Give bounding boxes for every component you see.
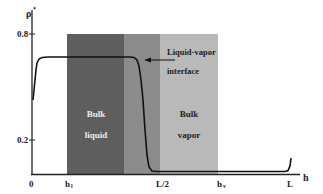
bulk-liquid-region bbox=[67, 34, 124, 174]
annotation-label-1: Liquid-vapor bbox=[167, 47, 216, 57]
x-tick-half-label: L/2 bbox=[156, 179, 170, 189]
bulk-vapor-label-1: Bulk bbox=[180, 109, 199, 119]
annotation-label-2: interface bbox=[167, 66, 199, 76]
bulk-liquid-label-1: Bulk bbox=[87, 109, 106, 119]
density-profile-chart: ρ * 0.8 0.2 0 h l L/2 h v L h Bulk liqui… bbox=[0, 0, 323, 194]
x-tick-0-label: 0 bbox=[29, 179, 34, 189]
x-tick-L-label: L bbox=[287, 179, 293, 189]
y-tick-08-label: 0.8 bbox=[17, 29, 29, 39]
y-tick-02-label: 0.2 bbox=[17, 135, 29, 145]
y-axis-label-sup: * bbox=[33, 6, 36, 12]
bulk-liquid-label-2: liquid bbox=[85, 130, 108, 140]
y-axis-label: ρ bbox=[26, 8, 31, 19]
x-tick-hv-sub: v bbox=[223, 183, 226, 189]
x-tick-hl-sub: l bbox=[71, 183, 73, 189]
bulk-vapor-label-2: vapor bbox=[178, 130, 201, 140]
x-tick-hl-label: h bbox=[65, 179, 70, 189]
interface-region bbox=[124, 34, 160, 174]
x-axis-label: h bbox=[303, 172, 309, 183]
x-tick-hv-label: h bbox=[217, 179, 222, 189]
